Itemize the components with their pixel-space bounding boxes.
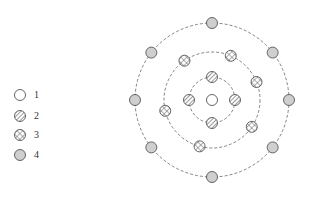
- node-hatched: [230, 95, 241, 106]
- legend-icon-empty: [15, 90, 26, 101]
- node-gray: [267, 47, 278, 58]
- node-crosshatched: [225, 50, 236, 61]
- legend-label: 3: [34, 130, 39, 140]
- node-crosshatched: [246, 121, 257, 132]
- nodes-group: [130, 18, 295, 183]
- node-gray: [146, 47, 157, 58]
- node-crosshatched: [179, 55, 190, 66]
- node-hatched: [184, 95, 195, 106]
- node-crosshatched: [160, 105, 171, 116]
- legend-icon-gray: [15, 150, 26, 161]
- legend-icon-hatched: [15, 111, 26, 122]
- legend-label: 1: [34, 90, 39, 100]
- node-gray: [207, 172, 218, 183]
- node-hatched: [207, 72, 218, 83]
- node-gray: [146, 142, 157, 153]
- center-node: [207, 95, 218, 106]
- node-gray: [130, 95, 141, 106]
- legend-icon-crosshatched: [15, 130, 26, 141]
- node-hatched: [207, 118, 218, 129]
- node-crosshatched: [251, 77, 262, 88]
- legend-label: 2: [34, 111, 39, 121]
- legend-label: 4: [34, 150, 39, 160]
- node-gray: [207, 18, 218, 29]
- legend-icons: [15, 90, 26, 161]
- concentric-ring-diagram: [0, 0, 311, 197]
- node-gray: [284, 95, 295, 106]
- node-crosshatched: [194, 141, 205, 152]
- node-gray: [267, 142, 278, 153]
